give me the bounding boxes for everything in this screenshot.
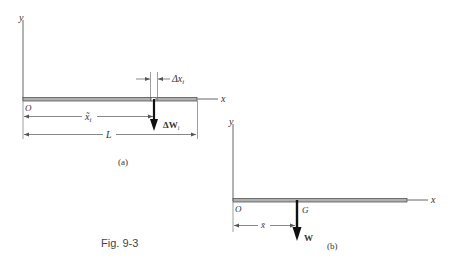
force-arrow-b-head — [293, 227, 302, 241]
L-label: L — [105, 129, 112, 140]
origin-label-a: O — [25, 103, 32, 113]
force-label-b: W — [304, 233, 313, 243]
bar-a-left — [23, 98, 151, 102]
bar-a-right — [157, 98, 197, 102]
panel-b: y x O G W x̄ (b) — [228, 116, 436, 251]
y-axis-label-a: y — [18, 12, 24, 23]
bar-b — [233, 199, 407, 203]
figure-canvas: y x O Δxi ΔWi x̃i — [0, 0, 455, 266]
origin-label-b: O — [235, 204, 242, 214]
y-axis-label-b: y — [228, 116, 234, 127]
x-axis-label-a: x — [220, 93, 226, 104]
xi-label: x̃i — [84, 111, 91, 124]
xbar-label: x̄ — [260, 220, 266, 230]
x-axis-label-b: x — [430, 194, 436, 205]
panel-a: y x O Δxi ΔWi x̃i — [18, 12, 226, 167]
panel-tag-b: (b) — [327, 241, 338, 251]
force-label-a: ΔWi — [163, 120, 180, 131]
force-arrow-a-head — [150, 119, 158, 131]
figure-caption: Fig. 9-3 — [101, 237, 138, 249]
dx-label: Δxi — [171, 73, 184, 86]
center-label-g: G — [302, 205, 309, 215]
panel-tag-a: (a) — [118, 157, 128, 167]
